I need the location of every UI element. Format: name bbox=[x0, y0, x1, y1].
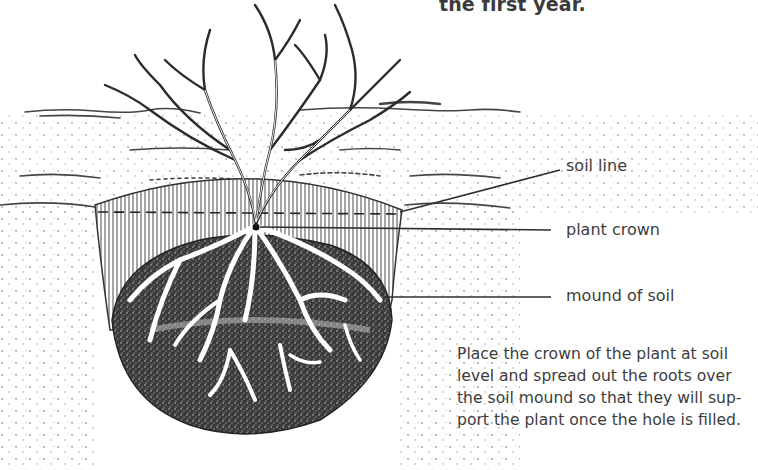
label-soil-line: soil line bbox=[566, 156, 627, 175]
figure-caption: Place the crown of the plant at soil lev… bbox=[457, 343, 757, 431]
caption-line: level and spread out the roots over bbox=[457, 365, 757, 387]
label-mound-of-soil: mound of soil bbox=[566, 286, 674, 305]
caption-line: port the plant once the hole is filled. bbox=[457, 409, 757, 431]
label-plant-crown: plant crown bbox=[566, 220, 660, 239]
caption-line: Place the crown of the plant at soil bbox=[457, 343, 757, 365]
heading-continuation: the first year. bbox=[439, 0, 586, 15]
caption-line: the soil mound so that they will sup- bbox=[457, 387, 757, 409]
